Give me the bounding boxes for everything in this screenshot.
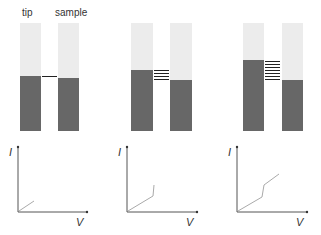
x-axis-label-voltage: V xyxy=(186,216,193,228)
iv-graph-zero-bias xyxy=(17,146,88,213)
iv-graph-low-bias xyxy=(126,146,198,213)
y-axis-label-current: I xyxy=(228,146,231,158)
y-axis-label-current: I xyxy=(9,146,12,158)
x-axis-label-voltage: V xyxy=(296,216,303,228)
x-axis-label-voltage: V xyxy=(76,216,83,228)
iv-graph-high-bias xyxy=(236,146,308,213)
y-axis-label-current: I xyxy=(118,146,121,158)
iv-graphs xyxy=(0,0,321,235)
